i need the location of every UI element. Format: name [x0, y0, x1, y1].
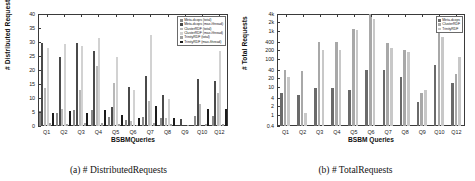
bar — [407, 52, 410, 126]
x-tick-label: Q3 — [78, 129, 85, 135]
bar — [339, 50, 342, 126]
bar — [155, 106, 157, 126]
legend-swatch-icon — [180, 41, 183, 44]
x-tick-label: Q9 — [181, 129, 188, 135]
x-tick-mark — [320, 14, 321, 17]
x-tick-mark — [133, 14, 134, 17]
bar — [451, 83, 454, 126]
bar — [434, 65, 437, 126]
bar-group — [311, 14, 328, 126]
x-tick-label: Q10 — [197, 129, 207, 135]
y-tick-label: 4 — [271, 95, 274, 101]
x-tick-mark — [371, 14, 372, 17]
x-tick-mark — [388, 14, 389, 17]
legend-swatch-icon — [180, 36, 183, 39]
y-tick-label: 200 — [265, 47, 274, 53]
bar — [297, 95, 300, 126]
x-tick-mark — [337, 14, 338, 17]
y-tick-mark — [38, 28, 41, 29]
bar-group — [345, 14, 362, 126]
bar — [207, 109, 209, 126]
bar-group — [397, 14, 414, 126]
bar — [318, 42, 321, 126]
bar — [138, 118, 140, 126]
x-tick-mark — [354, 14, 355, 17]
x-tick-label: Q2 — [60, 129, 67, 135]
bar — [287, 77, 290, 126]
bar — [424, 90, 427, 126]
bar — [356, 30, 359, 126]
bar — [52, 113, 54, 126]
y-tick-label: 100 — [265, 56, 274, 62]
y-tick-label: 30 — [29, 39, 35, 45]
bar — [86, 113, 88, 126]
x-tick-label: Q6 — [367, 129, 374, 135]
bar-group — [90, 14, 107, 126]
x-axis-label-b: BSBM Queries — [348, 136, 394, 143]
bar-group — [362, 14, 379, 126]
y-tick-mark — [277, 59, 280, 60]
panel-b-total-requests: # Total Requests 0.41241020401002004001k… — [237, 0, 474, 181]
bar — [331, 88, 334, 126]
x-tick-label: Q12 — [451, 129, 461, 135]
legend-item[interactable]: TrinityRDF (max./thread) — [180, 40, 223, 44]
bar-group — [107, 14, 124, 126]
bar — [47, 48, 49, 126]
x-tick-mark — [47, 14, 48, 17]
bar — [173, 118, 175, 126]
y-tick-label: 10 — [268, 84, 274, 90]
y-tick-mark — [38, 42, 41, 43]
bar — [150, 35, 152, 126]
bar — [81, 46, 83, 126]
y-tick-mark — [277, 42, 280, 43]
y-tick-label: 40 — [29, 11, 35, 17]
bar — [417, 102, 420, 127]
y-tick-mark — [277, 126, 280, 127]
bar — [455, 74, 458, 127]
x-tick-label: Q7 — [384, 129, 391, 135]
x-tick-label: Q2 — [299, 129, 306, 135]
y-tick-label: 10 — [29, 95, 35, 101]
bar — [373, 19, 376, 126]
bar — [64, 44, 66, 126]
x-tick-label: Q3 — [316, 129, 323, 135]
bar — [369, 14, 372, 126]
y-tick-label: 0 — [32, 123, 35, 129]
bar — [98, 38, 100, 126]
y-tick-label: 1 — [271, 112, 274, 118]
bar — [322, 50, 325, 126]
x-tick-label: Q12 — [214, 129, 224, 135]
y-tick-mark — [277, 98, 280, 99]
y-tick-mark — [277, 31, 280, 32]
figure-distributed-and-total-requests: # Distributed Requests 0510152025303540 … — [0, 0, 475, 181]
y-tick-mark — [277, 78, 280, 79]
y-axis-label-b: # Total Requests — [241, 16, 248, 70]
y-tick-mark — [38, 126, 41, 127]
y-tick-label: 25 — [29, 53, 35, 59]
bar — [420, 93, 423, 126]
legend-swatch-icon — [180, 23, 183, 26]
y-tick-label: 400 — [265, 39, 274, 45]
bar — [199, 104, 201, 126]
bar — [168, 99, 170, 126]
x-tick-mark — [303, 14, 304, 17]
legend-swatch-icon — [438, 28, 441, 31]
bar — [400, 77, 403, 126]
legend-item[interactable]: TrinityRDF — [438, 27, 460, 31]
bar — [284, 70, 287, 126]
bar — [225, 109, 227, 126]
y-tick-mark — [38, 56, 41, 57]
plot-area-b: 0.41241020401002004001k2k4k Q1Q2Q3Q4Q5Q6… — [277, 14, 465, 126]
x-tick-label: Q7 — [147, 129, 154, 135]
y-tick-label: 15 — [29, 81, 35, 87]
y-tick-mark — [38, 98, 41, 99]
y-axis-label-a: # Distributed Requests — [4, 0, 11, 70]
bar-group — [277, 14, 294, 126]
x-tick-label: Q4 — [95, 129, 102, 135]
bar — [390, 48, 393, 126]
bar-group — [159, 14, 176, 126]
y-tick-mark — [38, 84, 41, 85]
x-tick-label: Q4 — [333, 129, 340, 135]
y-tick-mark — [277, 106, 280, 107]
x-tick-mark — [405, 14, 406, 17]
